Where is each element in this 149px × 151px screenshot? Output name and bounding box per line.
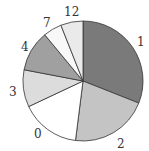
slice-label-3: 3 (9, 86, 17, 98)
slice-label-4: 4 (21, 41, 29, 53)
slice-label-12: 12 (64, 6, 79, 18)
slice-label-2: 2 (117, 138, 125, 150)
pie-chart (0, 0, 149, 151)
slice-label-7: 7 (43, 17, 51, 29)
slice-label-0: 0 (34, 128, 42, 140)
slice-label-1: 1 (137, 36, 145, 48)
